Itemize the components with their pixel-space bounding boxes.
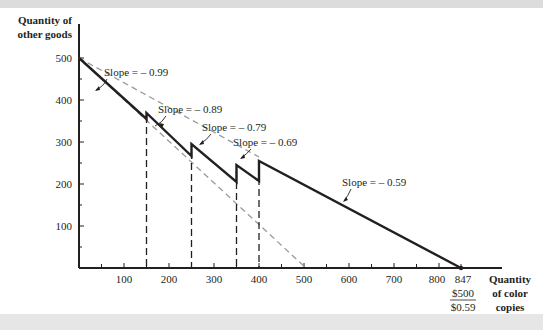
x-tick-label: 700 xyxy=(386,273,403,285)
budget-constraint-chart: Quantity of other goods 100 200 300 400 … xyxy=(0,0,543,330)
x-tick-label: 500 xyxy=(296,273,313,285)
y-axis-title-line1: Quantity of xyxy=(18,14,72,26)
arrowhead-icon xyxy=(343,197,348,202)
arrowhead-icon xyxy=(199,140,204,145)
arrowhead-icon xyxy=(95,86,100,91)
x-tick-label: 800 xyxy=(429,273,446,285)
slope-label-099: Slope = – 0.99 xyxy=(104,66,169,78)
slope-label-059: Slope = – 0.59 xyxy=(342,176,407,188)
y-tick-label: 300 xyxy=(56,136,73,148)
y-axis-title-line2: other goods xyxy=(18,28,73,40)
bottom-border xyxy=(0,314,543,330)
slope-label-089: Slope = – 0.89 xyxy=(158,103,223,115)
x-axis-title-line2: of color xyxy=(492,287,528,299)
y-tick-label: 500 xyxy=(56,52,73,64)
slope-label-069: Slope = – 0.69 xyxy=(233,136,298,148)
x-tick-label: 300 xyxy=(206,273,223,285)
x-fraction-numerator: $500 xyxy=(452,287,475,299)
y-tick-label: 200 xyxy=(56,178,73,190)
x-fraction-denominator: $0.59 xyxy=(451,301,476,313)
y-tick-label: 100 xyxy=(56,220,73,232)
x-special-label: 847 xyxy=(455,273,472,285)
x-tick-label: 100 xyxy=(116,273,133,285)
slope-label-079: Slope = – 0.79 xyxy=(202,121,267,133)
arrowhead-icon xyxy=(240,154,245,159)
x-tick-label: 400 xyxy=(251,273,268,285)
y-tick-label: 400 xyxy=(56,94,73,106)
x-axis-title-line1: Quantity xyxy=(489,273,532,285)
intercept-point xyxy=(459,266,463,270)
x-tick-label: 600 xyxy=(341,273,358,285)
x-axis-title-line3: copies xyxy=(496,301,525,313)
x-tick-label: 200 xyxy=(161,273,178,285)
